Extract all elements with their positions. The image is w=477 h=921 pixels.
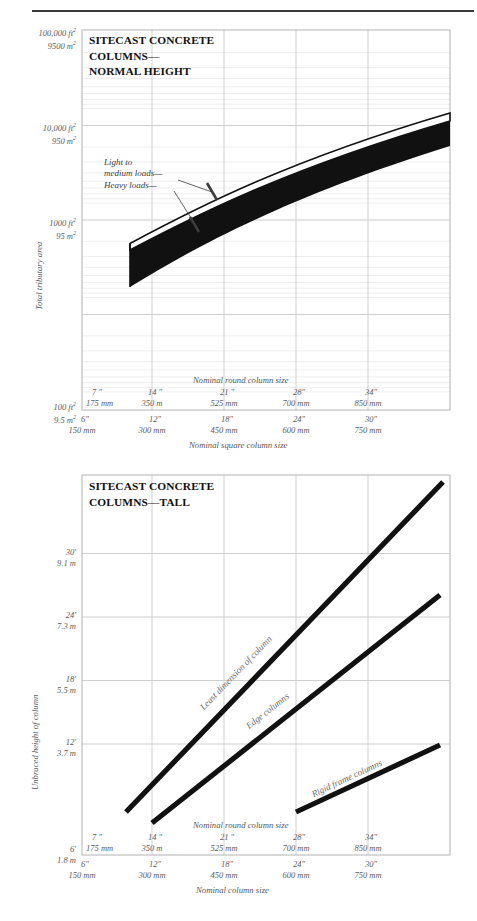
xtick-mm: 850 mm <box>338 398 398 409</box>
bottom-chart-xtick-square-24in: 24" 600 mm <box>266 859 326 880</box>
xtick-mm: 850 mm <box>338 843 398 854</box>
ytick-metric-sup: 2 <box>73 135 76 141</box>
ytick-imperial: 24' <box>66 610 76 620</box>
xtick-num: 28" <box>266 832 326 843</box>
xtick-mm: 525 mm <box>194 398 254 409</box>
bottom-chart-xtick-round-14in: 14 " 350 m <box>122 832 182 853</box>
ytick-imperial-sup: 2 <box>73 401 76 407</box>
top-chart-xtick-round-7in: 7 " 175 mm <box>86 387 113 408</box>
bottom-chart-x-axis-title-round: Nominal round column size <box>193 820 288 830</box>
bottom-chart-xtick-square-12in: 12" 300 mm <box>122 859 182 880</box>
top-chart-title: SITECAST CONCRETE COLUMNS— NORMAL HEIGHT <box>89 33 214 80</box>
xtick-num: 14 " <box>122 832 182 843</box>
top-chart-callout-light-to-medium-loads: Light to medium loads— <box>104 157 162 179</box>
ytick-imperial: 100 ft <box>53 402 73 412</box>
bottom-chart-ytick-12ft: 12' 3.7 m <box>6 737 76 758</box>
top-chart-load-band <box>130 113 450 287</box>
ytick-metric: 5.5 m <box>57 685 76 695</box>
bottom-chart-xtick-square-18in: 18" 450 mm <box>194 859 254 880</box>
ytick-imperial: 12' <box>66 737 76 747</box>
xtick-num: 24" <box>266 414 326 425</box>
top-chart-xtick-square-30in: 30" 750 mm <box>338 414 398 435</box>
xtick-num: 34" <box>338 387 398 398</box>
xtick-mm: 450 mm <box>194 870 254 881</box>
ytick-imperial: 18' <box>66 674 76 684</box>
ytick-metric: 3.7 m <box>57 748 76 758</box>
ytick-imperial: 1000 ft <box>49 218 73 228</box>
top-chart-xtick-round-21in: 21 " 525 mm <box>194 387 254 408</box>
top-chart-ytick-1000: 1000 ft2 95 m2 <box>6 215 76 242</box>
top-chart-y-axis-title: Total tributary area <box>34 242 44 310</box>
xtick-mm: 600 mm <box>266 425 326 436</box>
top-chart-grid <box>82 30 450 410</box>
xtick-mm: 700 mm <box>266 843 326 854</box>
ytick-imperial: 100,000 ft <box>39 28 73 38</box>
top-chart-x-axis-title-round: Nominal round column size <box>193 375 288 385</box>
top-chart-xtick-round-14in: 14 " 350 m <box>122 387 182 408</box>
xtick-mm: 175 mm <box>86 843 113 854</box>
bottom-chart-ytick-30ft: 30' 9.1 m <box>6 547 76 568</box>
xtick-num: 30" <box>338 859 398 870</box>
ytick-imperial-sup: 2 <box>73 27 76 33</box>
ytick-imperial-sup: 2 <box>73 122 76 128</box>
xtick-mm: 150 mm <box>52 870 112 881</box>
top-chart-callout-heavy-loads: Heavy loads— <box>104 180 157 191</box>
bottom-chart-xtick-round-7in: 7 " 175 mm <box>86 832 113 853</box>
bottom-chart-ytick-24ft: 24' 7.3 m <box>6 610 76 631</box>
bottom-chart-x-axis-title-nominal: Nominal column size <box>196 885 269 895</box>
top-chart-ytick-100000: 100,000 ft2 9500 m2 <box>6 25 76 52</box>
xtick-mm: 300 mm <box>122 425 182 436</box>
ytick-metric: 9.1 m <box>57 558 76 568</box>
xtick-num: 6" <box>52 414 112 425</box>
bottom-chart-xtick-square-30in: 30" 750 mm <box>338 859 398 880</box>
xtick-num: 12" <box>122 859 182 870</box>
top-chart-ytick-10000: 10,000 ft2 950 m2 <box>6 120 76 147</box>
ytick-metric: 9500 m <box>48 41 73 51</box>
top-chart-xtick-square-6in: 6" 150 mm <box>52 414 112 435</box>
xtick-num: 28" <box>266 387 326 398</box>
xtick-mm: 300 mm <box>122 870 182 881</box>
xtick-num: 18" <box>194 859 254 870</box>
top-chart-xtick-round-34in: 34" 850 mm <box>338 387 398 408</box>
xtick-num: 30" <box>338 414 398 425</box>
xtick-num: 6" <box>52 859 112 870</box>
ytick-imperial: 6' <box>70 844 76 854</box>
xtick-num: 18" <box>194 414 254 425</box>
heavy-loads-band <box>130 121 450 287</box>
ytick-metric-sup: 2 <box>73 230 76 236</box>
bottom-chart-series <box>126 482 443 823</box>
ytick-imperial: 30' <box>66 547 76 557</box>
top-chart-xtick-round-28in: 28" 700 mm <box>266 387 326 408</box>
ytick-metric: 7.3 m <box>57 621 76 631</box>
bottom-chart-xtick-round-34in: 34" 850 mm <box>338 832 398 853</box>
ytick-metric: 95 m <box>56 231 73 241</box>
xtick-num: 21 " <box>194 832 254 843</box>
bottom-chart-ytick-18ft: 18' 5.5 m <box>6 674 76 695</box>
xtick-mm: 350 m <box>122 843 182 854</box>
xtick-num: 24" <box>266 859 326 870</box>
bottom-chart-title: SITECAST CONCRETE COLUMNS—TALL <box>89 479 214 510</box>
ytick-imperial: 10,000 ft <box>43 123 73 133</box>
series-least-dimension-of-column <box>126 482 443 812</box>
top-chart-xtick-square-24in: 24" 600 mm <box>266 414 326 435</box>
xtick-mm: 350 m <box>122 398 182 409</box>
xtick-num: 34" <box>338 832 398 843</box>
xtick-mm: 600 mm <box>266 870 326 881</box>
ytick-metric: 950 m <box>52 136 73 146</box>
xtick-mm: 525 mm <box>194 843 254 854</box>
bottom-chart-xtick-square-6in: 6" 150 mm <box>52 859 112 880</box>
xtick-mm: 175 mm <box>86 398 113 409</box>
top-chart-xtick-square-18in: 18" 450 mm <box>194 414 254 435</box>
xtick-num: 21 " <box>194 387 254 398</box>
xtick-num: 7 " <box>86 387 113 398</box>
ytick-imperial-sup: 2 <box>73 217 76 223</box>
bottom-chart-xtick-round-21in: 21 " 525 mm <box>194 832 254 853</box>
xtick-mm: 750 mm <box>338 425 398 436</box>
xtick-mm: 750 mm <box>338 870 398 881</box>
xtick-mm: 700 mm <box>266 398 326 409</box>
ytick-metric-sup: 2 <box>73 40 76 46</box>
xtick-mm: 450 mm <box>194 425 254 436</box>
xtick-mm: 150 mm <box>52 425 112 436</box>
bottom-chart-xtick-round-28in: 28" 700 mm <box>266 832 326 853</box>
xtick-num: 7 " <box>86 832 113 843</box>
